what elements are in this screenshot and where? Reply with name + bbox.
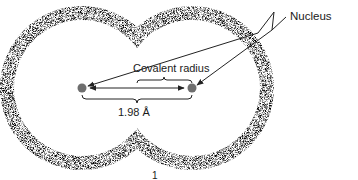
covalent-radius-label: Covalent radius bbox=[133, 62, 209, 74]
right-nucleus-dot bbox=[188, 84, 197, 93]
left-nucleus-dot bbox=[78, 84, 87, 93]
covalent-radius-diagram: Nucleus Covalent radius 1.98 Å 1 bbox=[0, 0, 358, 180]
bond-distance-label: 1.98 Å bbox=[118, 106, 150, 118]
electron-cloud-shell bbox=[0, 0, 358, 180]
nucleus-label: Nucleus bbox=[290, 10, 332, 22]
diagram-canvas bbox=[0, 0, 358, 180]
bottom-tick-mark: 1 bbox=[152, 170, 158, 180]
